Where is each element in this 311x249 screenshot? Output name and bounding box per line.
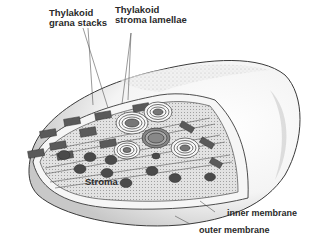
label-outer-membrane: outer membrane	[199, 225, 270, 235]
chloroplast-diagram: Thylakoid grana stacks Thylakoid stroma …	[0, 0, 311, 249]
label-thylakoid-stroma-lamellae: Thylakoid stroma lamellae	[115, 5, 187, 25]
label-grana-line2: grana stacks	[49, 18, 107, 28]
label-stroma: Stroma	[85, 177, 118, 187]
label-thylakoid-grana-stacks: Thylakoid grana stacks	[49, 8, 107, 28]
label-lamellae-line2: stroma lamellae	[115, 15, 187, 25]
label-inner-membrane: inner membrane	[227, 208, 297, 218]
